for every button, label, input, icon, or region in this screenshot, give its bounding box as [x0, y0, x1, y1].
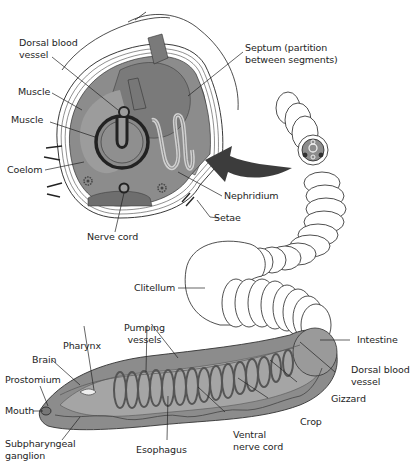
label-muscle-outer: Muscle	[18, 86, 50, 98]
label-crop: Crop	[300, 416, 322, 428]
label-ventral-nerve-cord: Ventral nerve cord	[233, 429, 283, 453]
label-pumping-vessels: Pumping vessels	[124, 322, 165, 346]
label-coelom: Coelom	[7, 164, 42, 176]
label-esophagus: Esophagus	[136, 444, 187, 456]
label-muscle-inner: Muscle	[11, 114, 43, 126]
label-nephridium: Nephridium	[224, 190, 279, 202]
label-intestine: Intestine	[357, 334, 398, 346]
label-nerve-cord: Nerve cord	[87, 231, 138, 243]
label-subpharyngeal-ganglion: Subpharyngeal ganglion	[5, 438, 76, 462]
label-dorsal-blood-vessel-body: Dorsal blood vessel	[351, 364, 410, 388]
label-pharynx: Pharynx	[63, 340, 101, 352]
label-dorsal-blood-vessel-section: Dorsal blood vessel	[19, 37, 78, 61]
label-gizzard: Gizzard	[331, 393, 366, 405]
label-prostomium: Prostomium	[5, 374, 61, 386]
label-setae: Setae	[214, 212, 241, 224]
label-clitellum: Clitellum	[134, 282, 175, 294]
label-mouth: Mouth	[5, 405, 34, 417]
label-septum: Septum (partition between segments)	[245, 42, 338, 66]
label-brain: Brain	[32, 354, 56, 366]
